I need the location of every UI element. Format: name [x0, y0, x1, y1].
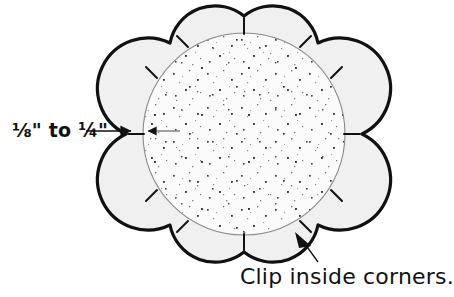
- clip-caption: Clip inside corners.: [240, 264, 454, 290]
- scalloped-shape: [97, 6, 390, 262]
- seam-allowance-label: ⅛" to ¼": [12, 119, 108, 141]
- interior-fabric-speckle-overlay: [143, 33, 345, 235]
